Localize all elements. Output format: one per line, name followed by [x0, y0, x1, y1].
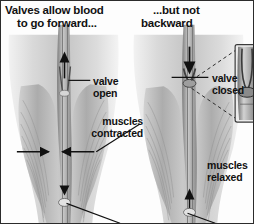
label-muscles-contracted-line1: muscles	[83, 115, 143, 127]
panel-right-title-line1: ...but not	[141, 4, 200, 17]
anatomy-illustration	[1, 1, 253, 223]
label-muscles-relaxed-line2: relaxed	[207, 171, 248, 183]
panel-left-title: Valves allow blood to go forward...	[5, 4, 104, 29]
label-muscles-contracted-line2: contracted	[83, 127, 143, 139]
panel-right-title: ...but not backward	[141, 4, 200, 29]
label-valve-open: valve open	[93, 75, 118, 99]
label-valve-closed-line1: valve	[212, 72, 244, 84]
label-valve-closed: valve closed	[212, 72, 244, 96]
panel-left-title-line1: Valves allow blood	[5, 4, 104, 16]
label-muscles-relaxed-line1: muscles	[207, 159, 248, 171]
label-valve-open-line1: valve	[93, 75, 118, 87]
panel-right-title-line2: backward	[141, 17, 192, 29]
label-muscles-relaxed: muscles relaxed	[207, 159, 248, 183]
label-muscles-contracted: muscles contracted	[83, 115, 143, 139]
figure-venous-valves: Valves allow blood to go forward... ...b…	[0, 0, 254, 224]
label-valve-closed-line2: closed	[212, 84, 244, 96]
label-valve-open-line2: open	[93, 87, 118, 99]
panel-left-title-line2: to go forward...	[5, 17, 104, 30]
